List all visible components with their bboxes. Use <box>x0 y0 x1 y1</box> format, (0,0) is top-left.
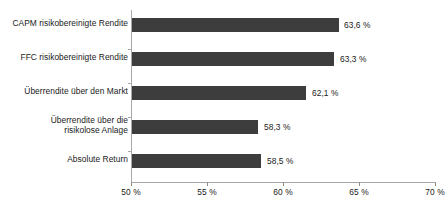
bar-value-ueberrendite-markt: 62,1 % <box>312 86 338 100</box>
x-axis-label-50: 50 % <box>121 187 140 198</box>
bar-ueberrendite-markt <box>132 86 306 100</box>
bar-value-ueberrendite-risikolose-anlage: 58,3 % <box>264 120 290 134</box>
category-label-absolute-return: Absolute Return <box>4 154 128 164</box>
bar-ffc <box>132 52 334 66</box>
category-label-ffc: FFC risikobereinigte Rendite <box>4 52 128 62</box>
category-label-capm: CAPM risikobereinigte Rendite <box>4 18 128 28</box>
x-axis-tick <box>207 182 208 186</box>
plot-area: 63,6 % 63,3 % 62,1 % 58,3 % 58,5 % 50 % … <box>131 10 435 182</box>
bar-ueberrendite-risikolose-anlage <box>132 120 258 134</box>
y-axis-tick <box>128 117 131 118</box>
bar-chart: CAPM risikobereinigte Rendite FFC risiko… <box>0 0 448 204</box>
bar-capm <box>132 18 339 32</box>
bar-absolute-return <box>132 154 261 168</box>
y-axis-tick <box>128 151 131 152</box>
x-axis-tick <box>131 182 132 186</box>
x-axis-tick <box>435 182 436 186</box>
bar-value-ffc: 63,3 % <box>340 52 366 66</box>
bar-value-absolute-return: 58,5 % <box>267 154 293 168</box>
category-label-ueberrendite-markt: Überrendite über den Markt <box>4 86 128 96</box>
y-axis-tick <box>128 49 131 50</box>
x-axis-tick <box>359 182 360 186</box>
bar-value-capm: 63,6 % <box>344 18 370 32</box>
x-axis-label-55: 55 % <box>197 187 216 198</box>
category-label-ueberrendite-risikolose-anlage: Überrendite über die risikolose Anlage <box>4 115 128 136</box>
x-axis-label-70: 70 % <box>425 187 444 198</box>
x-axis-label-60: 60 % <box>273 187 292 198</box>
x-axis-label-65: 65 % <box>349 187 368 198</box>
x-axis-tick <box>283 182 284 186</box>
y-axis-tick <box>128 83 131 84</box>
